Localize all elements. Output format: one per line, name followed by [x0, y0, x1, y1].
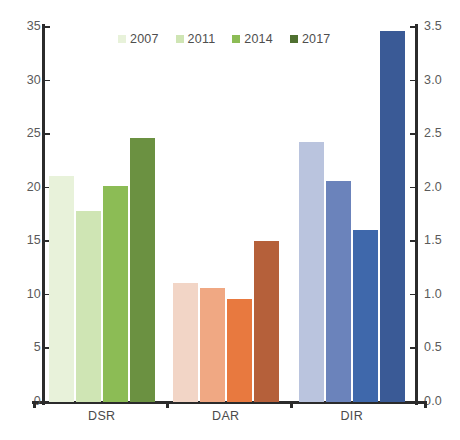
axis-tick-label-left: 10	[27, 287, 41, 301]
x-axis-tick	[33, 401, 36, 408]
axis-tick-label-left: 5	[34, 340, 41, 354]
axis-tick-label-right: 0.0	[424, 394, 442, 408]
bar-group-dsr	[49, 27, 156, 402]
bar-dsr-2014[interactable]	[103, 186, 129, 401]
x-axis-tick	[166, 401, 169, 408]
plot-area	[45, 27, 416, 402]
bar-dir-2011[interactable]	[326, 181, 352, 401]
x-axis-label-dar: DAR	[186, 409, 266, 423]
bar-chart: 2007201120142017 05101520253035 0.00.51.…	[0, 0, 460, 440]
x-axis-tick	[290, 401, 293, 408]
bar-dir-2017[interactable]	[380, 31, 406, 401]
bar-dsr-2011[interactable]	[76, 211, 102, 401]
bar-dir-2014[interactable]	[353, 230, 379, 401]
bar-dsr-2007[interactable]	[49, 176, 75, 402]
bar-group-dir	[299, 27, 406, 402]
bar-dar-2007[interactable]	[173, 283, 199, 402]
bar-dar-2017[interactable]	[254, 241, 280, 402]
x-axis-tick	[424, 401, 427, 408]
axis-tick-label-right: 3.5	[424, 19, 442, 33]
axis-tick-label-right: 3.0	[424, 73, 442, 87]
axis-tick-label-left: 35	[27, 19, 41, 33]
axis-tick-label-left: 20	[27, 180, 41, 194]
bar-dar-2014[interactable]	[227, 299, 253, 402]
axis-tick-label-right: 1.5	[424, 233, 442, 247]
axis-tick-label-right: 2.5	[424, 126, 442, 140]
axis-tick-label-left: 30	[27, 73, 41, 87]
axis-tick-label-left: 15	[27, 233, 41, 247]
bar-dsr-2017[interactable]	[130, 138, 156, 401]
bar-dar-2011[interactable]	[200, 288, 226, 401]
bar-dir-2007[interactable]	[299, 142, 325, 402]
bar-group-dar	[173, 27, 280, 402]
axis-tick-label-left: 25	[27, 126, 41, 140]
axis-tick-label-right: 2.0	[424, 180, 442, 194]
x-axis-label-dir: DIR	[312, 409, 392, 423]
axis-tick-label-right: 1.0	[424, 287, 442, 301]
axis-tick-label-right: 0.5	[424, 340, 442, 354]
x-axis-label-dsr: DSR	[62, 409, 142, 423]
